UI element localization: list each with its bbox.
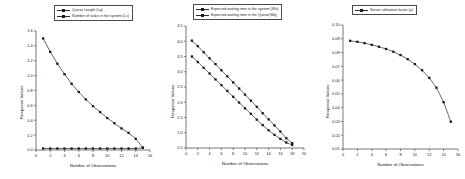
- svg-text:12: 12: [427, 152, 431, 157]
- svg-text:4: 4: [209, 151, 212, 156]
- svg-text:6: 6: [220, 151, 222, 156]
- svg-text:2: 2: [356, 152, 358, 157]
- server-utilization-plot: 0.010.020.030.040.050.060.070.080.090.10…: [310, 0, 465, 179]
- svg-text:20: 20: [302, 151, 307, 156]
- x-axis-ticks-1: 0246810121416: [35, 150, 152, 158]
- svg-text:10: 10: [105, 153, 110, 158]
- legend-chart-3: Server utilization factor (ρ): [352, 5, 417, 15]
- svg-text:4.0: 4.0: [177, 39, 183, 44]
- svg-text:2.5: 2.5: [177, 84, 182, 89]
- legend-entry-ws: Expected waiting time in the system (Ws): [196, 6, 278, 12]
- y-axis-ticks-3: 0.010.020.030.040.050.060.070.080.090.10: [332, 22, 343, 151]
- svg-text:0: 0: [185, 151, 188, 156]
- figure-three-panel-queueing-charts: 0.00.20.40.60.81.01.21.41.6 024681012141…: [0, 0, 465, 179]
- legend-marker-square-icon: [196, 13, 209, 18]
- legend-entry-wq: Expected waiting time in the Queue(Wq): [196, 12, 278, 18]
- svg-text:0.10: 0.10: [332, 22, 340, 27]
- svg-text:2: 2: [197, 151, 199, 156]
- legend-entry-tasks-in-system: Number of tasks in the system (Ls): [57, 13, 129, 19]
- svg-text:16: 16: [278, 151, 282, 156]
- svg-text:0.8: 0.8: [27, 88, 32, 93]
- y-axis-title-3: Response Values: [325, 85, 330, 118]
- svg-text:6: 6: [385, 152, 387, 157]
- legend-marker-square-icon: [57, 14, 70, 19]
- chart-panel-waiting-time: 0.51.01.52.02.53.03.54.04.5 024681012141…: [155, 0, 310, 179]
- svg-text:0.4: 0.4: [27, 118, 33, 123]
- svg-text:14: 14: [441, 152, 446, 157]
- svg-text:10: 10: [413, 152, 418, 157]
- legend-chart-2: Expected waiting time in the system (Ws)…: [193, 4, 282, 20]
- chart-panel-queue-length: 0.00.20.40.60.81.01.21.41.6 024681012141…: [0, 0, 155, 179]
- x-axis-title-3: Number of Observations: [343, 162, 458, 167]
- svg-text:1.5: 1.5: [177, 115, 182, 120]
- svg-text:8: 8: [232, 151, 234, 156]
- svg-text:0.05: 0.05: [332, 91, 340, 96]
- x-axis-ticks-3: 0246810121416: [342, 149, 460, 157]
- svg-text:0: 0: [342, 152, 345, 157]
- svg-text:0.09: 0.09: [332, 36, 340, 41]
- svg-text:2: 2: [49, 153, 51, 158]
- svg-text:3.0: 3.0: [177, 69, 183, 74]
- x-axis-title-1: Number of Observations: [36, 163, 150, 168]
- svg-text:1.2: 1.2: [27, 58, 32, 63]
- svg-text:14: 14: [134, 153, 139, 158]
- svg-text:12: 12: [255, 151, 259, 156]
- y-axis-title-2: Response Values: [170, 85, 175, 118]
- svg-text:4.5: 4.5: [177, 23, 182, 28]
- x-axis-title-2: Number of Observations: [186, 161, 304, 166]
- svg-text:0.01: 0.01: [332, 146, 340, 151]
- svg-text:8: 8: [399, 152, 401, 157]
- svg-text:3.5: 3.5: [177, 54, 182, 59]
- legend-chart-1: Queue Length (Lq) Number of tasks in the…: [54, 5, 133, 21]
- svg-text:8: 8: [92, 153, 94, 158]
- legend-marker-square-icon: [196, 7, 209, 12]
- svg-text:1.0: 1.0: [177, 130, 183, 135]
- legend-marker-square-icon: [355, 8, 368, 13]
- svg-text:0.07: 0.07: [332, 64, 340, 69]
- svg-text:0.02: 0.02: [332, 133, 340, 138]
- svg-text:18: 18: [290, 151, 294, 156]
- svg-text:12: 12: [119, 153, 123, 158]
- x-axis-ticks-2: 02468101214161820: [185, 148, 307, 156]
- legend-label-ws: Expected waiting time in the system (Ws): [211, 7, 278, 11]
- svg-text:14: 14: [266, 151, 271, 156]
- legend-label-rho: Server utilization factor (ρ): [370, 8, 413, 12]
- plot-axes-2: [186, 26, 304, 148]
- svg-text:2.0: 2.0: [177, 100, 183, 105]
- plot-axes-1: [36, 31, 150, 150]
- plot-axes-3: [343, 25, 458, 149]
- svg-text:16: 16: [456, 152, 460, 157]
- chart-panel-server-utilization: 0.010.020.030.040.050.060.070.080.090.10…: [310, 0, 465, 179]
- svg-text:0.2: 0.2: [27, 133, 32, 138]
- data-series-group-3: [349, 40, 452, 123]
- svg-text:0.04: 0.04: [332, 105, 340, 110]
- svg-text:1.4: 1.4: [27, 43, 33, 48]
- svg-text:0.08: 0.08: [332, 50, 340, 55]
- legend-label-tasks-in-system: Number of tasks in the system (Ls): [72, 14, 129, 18]
- legend-marker-square-icon: [57, 8, 70, 13]
- svg-text:16: 16: [148, 153, 152, 158]
- svg-text:0.5: 0.5: [177, 145, 182, 150]
- svg-text:0.06: 0.06: [332, 78, 340, 83]
- svg-text:4: 4: [63, 153, 66, 158]
- svg-text:0.03: 0.03: [332, 119, 340, 124]
- svg-text:1.0: 1.0: [27, 73, 33, 78]
- y-axis-title-1: Response Values: [19, 86, 24, 119]
- svg-text:4: 4: [371, 152, 374, 157]
- svg-text:1.6: 1.6: [27, 28, 32, 33]
- svg-text:10: 10: [243, 151, 248, 156]
- legend-label-wq: Expected waiting time in the Queue(Wq): [211, 13, 277, 17]
- y-axis-ticks-2: 0.51.01.52.02.53.03.54.04.5: [177, 23, 186, 150]
- svg-text:0.6: 0.6: [27, 103, 32, 108]
- svg-text:0: 0: [35, 153, 38, 158]
- data-series-group-1: [42, 37, 144, 149]
- svg-text:6: 6: [78, 153, 80, 158]
- waiting-time-plot: 0.51.01.52.02.53.03.54.04.5 024681012141…: [155, 0, 310, 179]
- legend-entry-rho: Server utilization factor (ρ): [355, 7, 413, 13]
- legend-label-queue-length: Queue Length (Lq): [72, 8, 103, 12]
- y-axis-ticks-1: 0.00.20.40.60.81.01.21.41.6: [27, 28, 36, 152]
- data-series-group-2: [191, 39, 294, 146]
- svg-text:0.0: 0.0: [27, 147, 33, 152]
